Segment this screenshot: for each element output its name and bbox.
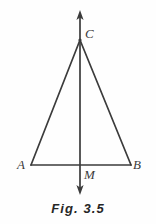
vertex-label-c: C: [85, 27, 94, 40]
triangle-side-ac: [31, 40, 80, 165]
vertex-label-a: A: [17, 158, 25, 171]
vertex-label-m: M: [84, 168, 95, 181]
figure-container: C A B M Fig. 3.5: [0, 0, 156, 224]
figure-caption: Fig. 3.5: [0, 201, 156, 216]
vertex-label-b: B: [133, 158, 141, 171]
vertex-point-c: [78, 38, 81, 41]
triangle-side-bc: [80, 40, 131, 165]
geometry-diagram: [0, 0, 156, 224]
